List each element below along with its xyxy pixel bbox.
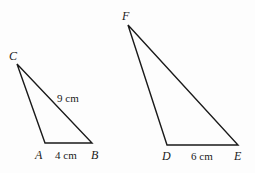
vertex-label-b: B: [91, 148, 99, 162]
side-label-de: 6 cm: [191, 150, 213, 162]
vertex-label-f: F: [121, 9, 130, 23]
triangle-def-outline: [128, 25, 238, 145]
side-label-cb: 9 cm: [57, 92, 79, 104]
diagram-svg: C A B 4 cm 9 cm F D E 6 cm: [0, 0, 255, 173]
similar-triangles-diagram: C A B 4 cm 9 cm F D E 6 cm: [0, 0, 255, 173]
side-label-ab: 4 cm: [55, 149, 77, 161]
vertex-label-d: D: [161, 149, 171, 163]
triangle-def: F D E 6 cm: [121, 9, 242, 163]
triangle-abc: C A B 4 cm 9 cm: [9, 49, 99, 162]
vertex-label-a: A: [34, 148, 43, 162]
triangle-abc-outline: [17, 64, 92, 143]
vertex-label-e: E: [233, 149, 242, 163]
vertex-label-c: C: [9, 49, 18, 63]
